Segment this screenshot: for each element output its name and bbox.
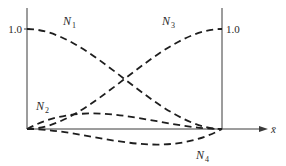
svg-text:N: N (195, 148, 205, 162)
svg-text:2: 2 (45, 106, 49, 115)
svg-text:N: N (62, 14, 72, 28)
curve-n4 (27, 129, 222, 145)
curve-n3 (27, 29, 222, 129)
svg-text:4: 4 (205, 155, 209, 164)
shape-function-diagram: 1.0 1.0 x̄ N 1 N 3 N 2 N 4 (0, 0, 286, 166)
label-n2: N 2 (35, 99, 49, 115)
svg-text:N: N (35, 99, 45, 113)
label-n3: N 3 (161, 14, 175, 30)
label-n1: N 1 (62, 14, 76, 30)
x-axis-arrow-icon (259, 126, 268, 132)
svg-text:1: 1 (72, 21, 76, 30)
svg-text:3: 3 (171, 21, 175, 30)
curve-n2 (27, 113, 222, 129)
svg-text:N: N (161, 14, 171, 28)
right-tick-label: 1.0 (226, 23, 240, 35)
curve-n1 (27, 29, 222, 129)
label-n4: N 4 (195, 148, 209, 164)
left-tick-label: 1.0 (8, 23, 22, 35)
x-axis-label: x̄ (270, 123, 276, 135)
